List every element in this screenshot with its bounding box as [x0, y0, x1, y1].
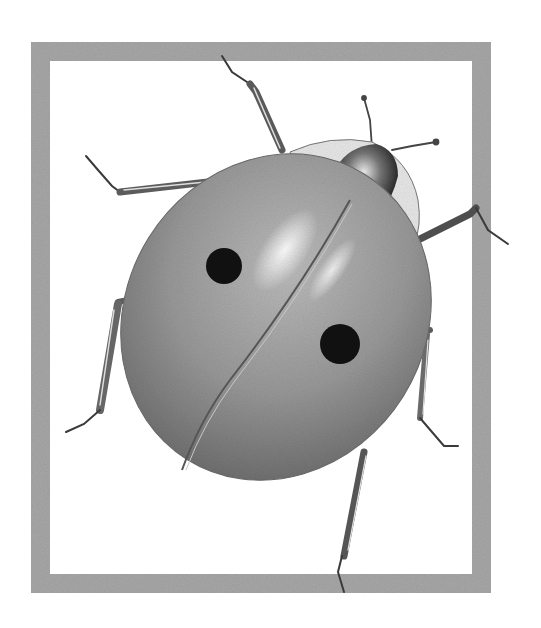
drawing-canvas: Pencil drawing of a two-spot ladybug ins… [0, 0, 541, 628]
right-spot [320, 324, 360, 364]
ladybug-illustration [0, 0, 541, 628]
left-spot [206, 248, 242, 284]
ladybug-antennae [362, 96, 439, 150]
